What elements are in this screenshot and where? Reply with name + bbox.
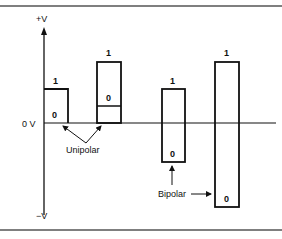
pulse-4-top-label: 1	[224, 48, 229, 58]
pulse-4-bottom-label: 0	[224, 194, 229, 204]
pulse-1-top-label: 1	[53, 76, 58, 86]
pulse-3-bottom-label: 0	[170, 149, 175, 159]
axis-arrow-icon	[41, 27, 47, 35]
pulse-3-top-label: 1	[170, 76, 175, 86]
pulse-1-bottom-label: 0	[52, 110, 57, 120]
zero-voltage-label: 0 V	[22, 119, 36, 129]
unipolar-pulse-1: 1 0	[44, 76, 68, 123]
bipolar-label: Bipolar	[158, 189, 186, 199]
bipolar-pulse-1: 1 0	[162, 76, 185, 162]
unipolar-label: Unipolar	[66, 145, 100, 155]
bipolar-pulse-2: 1 0	[215, 48, 239, 207]
unipolar-pulse-2: 1 0	[97, 48, 121, 123]
unipolar-bipolar-diagram: +V 0 V −V 1 0 1 0 1 0 1 0 Unipolar Bipol…	[0, 0, 282, 239]
bipolar-callout: Bipolar	[158, 166, 211, 199]
positive-voltage-label: +V	[36, 14, 47, 24]
pulse-2-bottom-label: 0	[106, 93, 111, 103]
negative-voltage-label: −V	[36, 211, 47, 221]
pulse-2-top-label: 1	[106, 48, 111, 58]
unipolar-callout: Unipolar	[63, 126, 101, 155]
